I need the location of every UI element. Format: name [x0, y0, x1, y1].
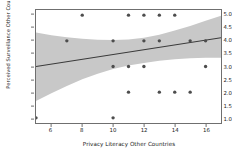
x-tick-label: 6 [41, 127, 61, 133]
scatter-plot-figure: Perceived Surveillance Other Countries P… [0, 0, 232, 155]
data-point [127, 91, 130, 94]
data-point [81, 13, 84, 16]
data-point [142, 13, 145, 16]
x-tick-mark [144, 124, 145, 127]
data-point [188, 39, 191, 42]
data-point [158, 91, 161, 94]
y-tick-mark [31, 79, 34, 80]
data-point [111, 116, 114, 119]
data-point [36, 116, 38, 119]
data-point [111, 39, 114, 42]
x-tick-label: 16 [196, 127, 216, 133]
data-point [188, 91, 191, 94]
x-axis-label: Privacy Literacy Other Countries [35, 141, 223, 147]
y-axis-label: Perceived Surveillance Other Countries [5, 0, 11, 97]
data-point [158, 39, 161, 42]
x-tick-mark [175, 124, 176, 127]
data-point [142, 65, 145, 68]
data-point [65, 39, 68, 42]
x-tick-label: 8 [72, 127, 92, 133]
y-tick-mark [31, 118, 34, 119]
data-point [127, 65, 130, 68]
plot-canvas [36, 10, 221, 123]
plot-area [35, 9, 222, 124]
x-tick-label: 12 [134, 127, 154, 133]
data-point [127, 13, 130, 16]
y-tick-mark [31, 53, 34, 54]
x-tick-label: 10 [103, 127, 123, 133]
data-point [204, 65, 207, 68]
x-tick-mark [113, 124, 114, 127]
x-tick-label: 14 [165, 127, 185, 133]
data-point [173, 13, 176, 16]
data-point [142, 39, 145, 42]
data-point [158, 13, 161, 16]
data-point [204, 39, 207, 42]
y-tick-mark [31, 92, 34, 93]
y-tick-mark [31, 14, 34, 15]
data-point [111, 65, 114, 68]
y-tick-mark [31, 40, 34, 41]
x-tick-mark [81, 124, 82, 127]
x-tick-mark [206, 124, 207, 127]
confidence-band [36, 16, 221, 101]
y-tick-mark [31, 105, 34, 106]
y-tick-mark [31, 66, 34, 67]
data-point [173, 91, 176, 94]
y-tick-mark [31, 27, 34, 28]
x-tick-mark [50, 124, 51, 127]
